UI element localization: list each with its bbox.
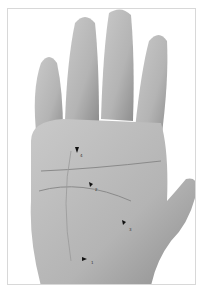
arrow-label-4: 4 [80,153,83,158]
palm-image [8,9,196,285]
image-frame: 4 2 3 1 [7,8,196,285]
arrow-label-3: 3 [129,227,132,232]
arrow-label-2: 2 [95,187,98,192]
arrow-label-1: 1 [91,260,94,265]
